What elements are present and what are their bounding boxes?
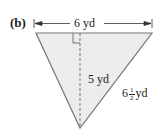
base-label: 6 yd <box>72 17 97 29</box>
part-label: (b) <box>10 17 26 29</box>
side-fraction: 12 <box>129 87 135 102</box>
height-label: 5 yd <box>88 73 109 85</box>
fraction-denominator: 2 <box>129 95 135 102</box>
side-label: 612yd <box>122 87 148 102</box>
side-unit: yd <box>136 86 148 100</box>
side-whole: 6 <box>122 86 128 100</box>
